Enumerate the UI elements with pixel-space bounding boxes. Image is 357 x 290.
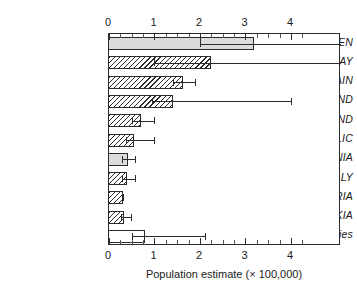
axis-tick-minor [166, 240, 167, 244]
axis-tick-minor [166, 34, 167, 38]
axis-tick-major [291, 34, 292, 40]
axis-tick-minor [189, 240, 190, 244]
axis-tick-label: 4 [280, 16, 300, 28]
error-bar-cap [122, 156, 123, 163]
axis-tick-minor [211, 34, 212, 38]
axis-tick-minor [302, 240, 303, 244]
axis-tick-minor [223, 34, 224, 38]
axis-tick-minor [143, 34, 144, 38]
error-bar-cap [200, 40, 201, 47]
axis-tick-label: 3 [234, 16, 254, 28]
error-bar-cap [135, 175, 136, 182]
axis-tick-minor [120, 34, 121, 38]
axis-tick-minor [234, 240, 235, 244]
error-bar-cap [291, 98, 292, 105]
error-bar-cap [195, 79, 196, 86]
error-bar-cap [131, 214, 132, 221]
error-bar [122, 179, 135, 180]
axis-tick-minor [189, 34, 190, 38]
axis-tick-minor [177, 240, 178, 244]
axis-tick-minor [302, 34, 303, 38]
error-bar [152, 101, 291, 102]
axis-tick-major [291, 238, 292, 244]
error-bar [132, 121, 155, 122]
axis-tick-major [109, 238, 110, 244]
error-bar-cap [121, 214, 122, 221]
axis-tick-major [245, 34, 246, 40]
error-bar-cap [135, 156, 136, 163]
error-bar [122, 159, 136, 160]
error-bar [132, 236, 205, 237]
error-bar [126, 140, 154, 141]
axis-tick-label: 2 [189, 16, 209, 28]
error-bar-cap [152, 98, 153, 105]
axis-tick-minor [234, 34, 235, 38]
error-bar-cap [205, 233, 206, 240]
axis-tick-major [154, 238, 155, 244]
axis-tick-major [200, 34, 201, 40]
axis-tick-label: 2 [189, 249, 209, 261]
axis-tick-minor [268, 34, 269, 38]
axis-tick-label: 0 [98, 249, 118, 261]
axis-tick-label: 1 [143, 249, 163, 261]
axis-tick-major [154, 34, 155, 40]
error-bar-cap [122, 175, 123, 182]
axis-tick-minor [280, 34, 281, 38]
error-bar [173, 82, 196, 83]
axis-tick-minor [132, 34, 133, 38]
axis-tick-minor [211, 240, 212, 244]
plot-area [108, 33, 340, 245]
error-bar-cap [126, 137, 127, 144]
error-bar [121, 217, 131, 218]
error-bar-cap [154, 59, 155, 66]
error-bar-cap [154, 117, 155, 124]
error-bar-cap [132, 233, 133, 240]
axis-tick-major [109, 34, 110, 40]
error-bar-cap [154, 137, 155, 144]
axis-tick-major [200, 238, 201, 244]
error-bar [154, 63, 341, 64]
axis-tick-minor [132, 240, 133, 244]
error-bar-cap [173, 79, 174, 86]
axis-tick-label: 1 [143, 16, 163, 28]
axis-tick-minor [177, 34, 178, 38]
x-axis-title: Population estimate (× 100,000) [108, 268, 340, 280]
population-estimate-bar-chart: SWEDENNORWAYSPAINFINLANDSWITZERLANDCZECH… [0, 0, 357, 290]
axis-tick-label: 3 [234, 249, 254, 261]
axis-tick-label: 4 [280, 249, 300, 261]
axis-tick-minor [268, 240, 269, 244]
bar [109, 191, 123, 204]
axis-tick-minor [223, 240, 224, 244]
axis-tick-minor [257, 240, 258, 244]
axis-tick-minor [120, 240, 121, 244]
axis-tick-minor [257, 34, 258, 38]
error-bar [200, 44, 341, 45]
axis-tick-label: 0 [98, 16, 118, 28]
error-bar-cap [123, 194, 124, 201]
axis-tick-minor [280, 240, 281, 244]
axis-tick-minor [143, 240, 144, 244]
error-bar-cap [132, 117, 133, 124]
axis-tick-major [245, 238, 246, 244]
